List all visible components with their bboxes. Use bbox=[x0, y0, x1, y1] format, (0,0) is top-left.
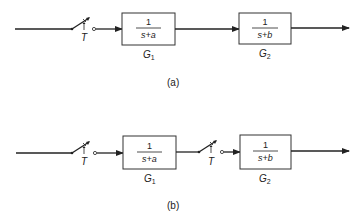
sampler-switch-b2 bbox=[198, 140, 224, 154]
sampler1-period-label: T bbox=[81, 156, 88, 167]
g1-label: G1 bbox=[144, 173, 156, 185]
g2-denominator: s+b bbox=[258, 30, 273, 40]
sampler-period-label: T bbox=[81, 32, 88, 43]
g1-denominator: s+a bbox=[141, 30, 156, 40]
sampler2-period-label: T bbox=[208, 156, 215, 167]
g2-denominator: s+b bbox=[258, 153, 273, 163]
g1-numerator: 1 bbox=[146, 17, 151, 27]
diagram-a: T 1 s+a G1 1 s+b G2 (a) bbox=[15, 13, 349, 88]
g2-numerator: 1 bbox=[263, 140, 268, 150]
g2-numerator: 1 bbox=[262, 17, 267, 27]
caption-a: (a) bbox=[167, 77, 179, 88]
g2-label: G2 bbox=[259, 48, 271, 60]
block-g1-b: 1 s+a bbox=[123, 136, 176, 169]
block-diagram-figure: T 1 s+a G1 1 s+b G2 (a) bbox=[0, 0, 364, 221]
caption-b: (b) bbox=[167, 200, 179, 211]
block-g1-a: 1 s+a bbox=[122, 13, 175, 45]
block-g2-b: 1 s+b bbox=[240, 135, 291, 169]
g1-numerator: 1 bbox=[147, 141, 152, 151]
g1-label: G1 bbox=[143, 49, 155, 61]
diagram-b: T 1 s+a G1 T 1 s+b G2 bbox=[16, 135, 349, 211]
block-g2-a: 1 s+b bbox=[239, 13, 291, 44]
sampler-switch-b1 bbox=[71, 141, 97, 155]
g2-label: G2 bbox=[259, 173, 271, 185]
g1-denominator: s+a bbox=[142, 154, 157, 164]
sampler-switch-a bbox=[71, 17, 96, 31]
